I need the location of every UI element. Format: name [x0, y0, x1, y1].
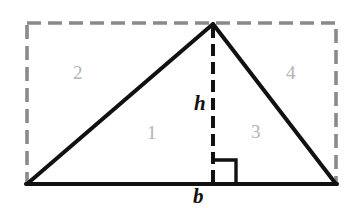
region-label-1: 1 — [147, 123, 157, 142]
height-label: h — [194, 93, 206, 114]
dashed-bounding-rectangle — [27, 23, 336, 184]
right-angle-square-marker — [213, 160, 236, 184]
region-label-3: 3 — [251, 122, 261, 141]
base-label: b — [193, 186, 204, 207]
triangle-left-side — [27, 24, 213, 184]
region-label-4: 4 — [286, 63, 296, 82]
triangle-area-figure: 1 2 3 4 h b — [0, 0, 355, 208]
figure-canvas — [0, 0, 355, 208]
region-label-2: 2 — [73, 63, 83, 82]
